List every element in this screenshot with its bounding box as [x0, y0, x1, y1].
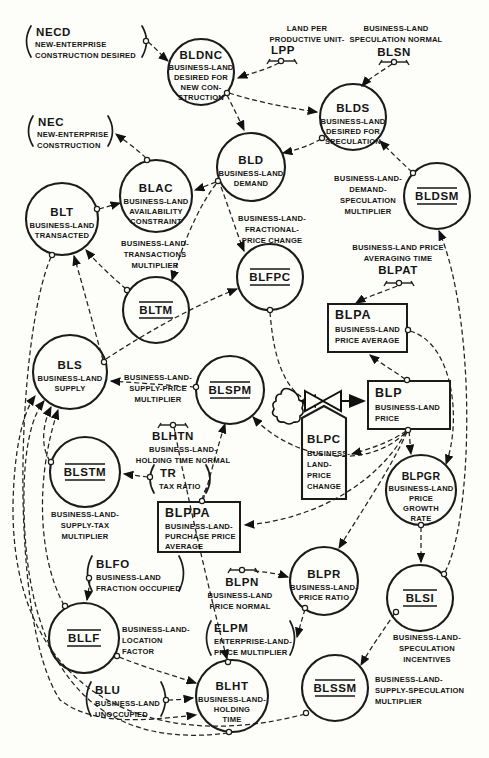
blfo-label: BUSINESS-LANDFRACTION OCCUPIED	[96, 573, 181, 593]
node-blp: BLP BUSINESS-LANDPRICE	[368, 381, 450, 429]
blac-label: BUSINESS-LANDAVAILABILITYCONSTRAINT	[123, 197, 188, 226]
blpr-acronym: BLPR	[307, 568, 341, 580]
node-blfpc: BLFPC BUSINESS-LAND-FRACTIONAL-PRICE CHA…	[237, 214, 306, 310]
blpn-acronym: BLPN	[225, 576, 259, 588]
bllf-caption: BUSINESS-LAND-LOCATIONFACTOR	[122, 625, 190, 656]
blu-label: BUSINESS-LANDUNOCCUPIED	[95, 699, 160, 719]
junction-dot	[215, 178, 220, 183]
node-blt: BLT BUSINESS-LANDTRANSACTED	[26, 183, 98, 255]
bltm-caption: BUSINESS-LAND-TRANSACTIONSMULTIPLIER	[121, 239, 189, 270]
nec-paren-right	[108, 116, 113, 146]
flow-diagram-svg: NECD NEW-ENTERPRISECONSTRUCTION DESIRED …	[0, 0, 489, 758]
node-blac: BLAC BUSINESS-LANDAVAILABILITYCONSTRAINT	[120, 160, 192, 232]
link-blsn-blds	[362, 64, 392, 86]
external-elpm: ELPM ENTERPRISE-LAND-PRICE MULTIPLIER	[207, 621, 295, 657]
link-blp-blpgr	[409, 431, 411, 454]
elpm-label: ENTERPRISE-LAND-PRICE MULTIPLIER	[214, 637, 292, 657]
blpgr-acronym: BLPGR	[402, 470, 441, 482]
blt-label: BUSINESS-LANDTRANSACTED	[29, 221, 94, 240]
link-bllf-blht	[119, 657, 196, 683]
junction-dot	[48, 459, 53, 464]
blds-acronym: BLDS	[336, 102, 370, 114]
blpat-label: BUSINESS-LAND PRICEAVERAGING TIME	[352, 243, 444, 263]
junction-dot	[224, 90, 229, 95]
blpn-label: BUSINESS-LANDPRICE NORMAL	[207, 591, 272, 611]
junction-dot	[86, 575, 91, 580]
junction-dot	[267, 307, 272, 312]
blpa-label: BUSINESS-LANDPRICE AVERAGE	[335, 325, 400, 345]
junction-dot	[124, 287, 129, 292]
blfpc-acronym: BLFPC	[249, 271, 290, 283]
junction-dot	[226, 729, 231, 734]
blfo-paren-left	[88, 556, 93, 591]
blpc-acronym: BLPC	[307, 433, 341, 445]
node-bld: BLD BUSINESS-LANDDEMAND	[217, 133, 285, 201]
node-blspm: BLSPM BUSINESS-LAND-SUPPLY-PRICEMULTIPLI…	[124, 356, 264, 424]
link-bldnc-blds	[229, 93, 317, 112]
valve-icon	[305, 391, 341, 411]
external-blfo: BLFO BUSINESS-LANDFRACTION OCCUPIED	[88, 556, 184, 593]
blds-label: BUSINESS-LANDDESIRED FORSPECULATION	[320, 117, 385, 146]
blac-acronym: BLAC	[139, 182, 173, 194]
junction-dot	[405, 327, 410, 332]
blssm-caption: BUSINESS-LAND-SUPPLY-SPECULATIONMULTIPLI…	[375, 675, 464, 706]
junction-dot	[302, 605, 307, 610]
junction-dot	[143, 38, 148, 43]
junction-dot	[163, 697, 168, 702]
junction-dot	[225, 659, 230, 664]
link-blds-bld	[283, 139, 321, 153]
blht-label: BUSINESS-LAND-HOLDINGTIME	[198, 695, 266, 724]
blhtn-acronym: BLHTN	[152, 430, 194, 442]
diagram-canvas: NECD NEW-ENTERPRISECONSTRUCTION DESIRED …	[0, 0, 489, 758]
junction-dot	[170, 422, 175, 427]
blspm-acronym: BLSPM	[208, 384, 251, 396]
cloud-source-icon	[273, 389, 304, 424]
necd-label: NEW-ENTERPRISECONSTRUCTION DESIRED	[35, 40, 136, 60]
blpa-acronym: BLPA	[335, 308, 371, 322]
external-tr: TR TAX RATIO	[150, 465, 210, 493]
blsn-label: BUSINESS-LANDSPECULATION NORMAL	[350, 24, 443, 44]
junction-dot	[410, 170, 415, 175]
junction-dot	[404, 377, 409, 382]
junction-dot	[278, 58, 283, 63]
junction-dot	[303, 710, 308, 715]
node-blht: BLHT BUSINESS-LAND-HOLDINGTIME	[196, 660, 268, 732]
constant-blhtn: BLHTN BUSINESS-LAND-HOLDING TIME NORMAL	[136, 423, 231, 465]
blp-label: BUSINESS-LANDPRICE	[375, 403, 440, 423]
blsn-acronym: BLSN	[377, 46, 411, 58]
elpm-paren-left	[207, 621, 212, 655]
price-flow-channel	[273, 389, 364, 424]
external-nec: NEC NEW-ENTERPRISECONSTRUCTION	[29, 116, 113, 150]
nec-label: NEW-ENTERPRISECONSTRUCTION	[37, 130, 108, 150]
junction-dot	[147, 474, 152, 479]
blsi-caption: BUSINESS-LAND-SPECULATIONINCENTIVES	[393, 633, 461, 664]
bldsm-caption: BUSINESS-LAND-DEMAND-SPECULATIONMULTIPLI…	[334, 174, 402, 216]
bltm-acronym: BLTM	[139, 304, 172, 316]
node-blpc: BLPC BUSINESS-LAND-PRICECHANGE	[302, 406, 350, 499]
bls-acronym: BLS	[58, 359, 83, 371]
constant-blpat: BUSINESS-LAND PRICEAVERAGING TIME BLPAT	[352, 243, 444, 286]
constant-lpp: LAND PERPRODUCTIVE UNIT- LPP	[267, 24, 345, 64]
bldnc-label: BUSINESS-LANDDESIRED FORNEW CON-STRUCTIO…	[168, 63, 233, 102]
link-blu-blht	[168, 698, 193, 700]
link-blac-nec	[116, 134, 146, 158]
link-bldsm-blds	[380, 141, 412, 172]
blppa-acronym: BLPPA	[165, 506, 210, 520]
constant-blsn: BUSINESS-LANDSPECULATION NORMAL BLSN	[350, 24, 443, 65]
blsi-acronym: BLSI	[406, 592, 435, 604]
blfpc-caption: BUSINESS-LAND-FRACTIONAL-PRICE CHANGE	[238, 214, 306, 245]
blhtn-label: BUSINESS-LAND-HOLDING TIME NORMAL	[136, 445, 231, 465]
necd-acronym: NECD	[36, 26, 71, 38]
junction-dot	[101, 359, 106, 364]
necd-paren-left	[27, 26, 32, 57]
node-bldsm: BLDSM BUSINESS-LAND-DEMAND-SPECULATIONMU…	[334, 163, 470, 229]
junction-dot	[418, 522, 423, 527]
junction-dot	[239, 567, 244, 572]
blp-acronym: BLP	[375, 386, 402, 400]
bls-label: BUSINESS-LANDSUPPLY	[37, 374, 102, 393]
junction-dot	[393, 609, 398, 614]
junction-dot	[199, 498, 204, 503]
blstm-caption: BUSINESS-LAND-SUPPLY-TAXMULTIPLIER	[51, 510, 119, 541]
blpc-label: BUSINESS-LAND-PRICECHANGE	[307, 449, 350, 491]
junction-dot	[62, 603, 67, 608]
